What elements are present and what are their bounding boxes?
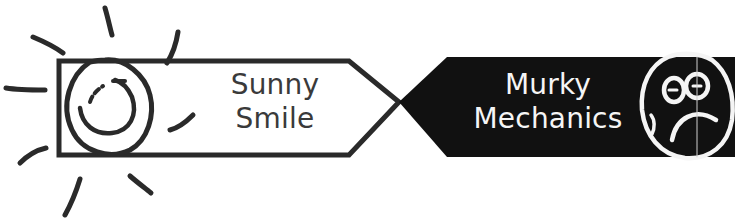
left-panel-line2: Smile	[205, 102, 345, 136]
right-panel-label: Murky Mechanics	[468, 68, 628, 136]
right-panel-line1: Murky	[468, 68, 628, 102]
right-panel-line2: Mechanics	[468, 102, 628, 136]
left-panel-label: Sunny Smile	[205, 68, 345, 136]
left-panel-line1: Sunny	[205, 68, 345, 102]
diagram-canvas	[0, 0, 741, 219]
